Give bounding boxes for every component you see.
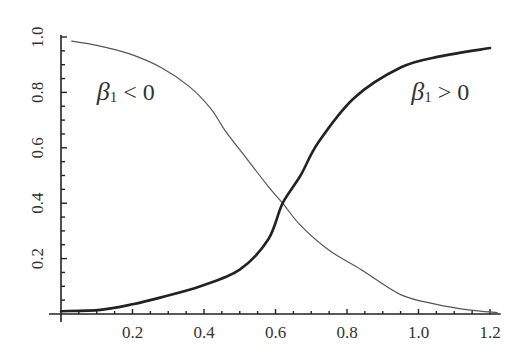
y-tick-label: 0.4 [28, 192, 47, 214]
x-tick-label: 0.8 [336, 323, 357, 342]
logistic-curves-chart: 0.20.40.60.81.01.2 0.20.40.60.81.0 β1 < … [0, 0, 531, 357]
annotations: β1 < 0β1 > 0 [96, 77, 470, 106]
x-tick-label: 0.2 [122, 323, 143, 342]
x-tick-label: 1.0 [408, 323, 429, 342]
y-tick-label: 1.0 [28, 26, 47, 47]
label-beta-positive: β1 > 0 [410, 77, 469, 106]
label-beta-negative: β1 < 0 [96, 77, 155, 106]
x-tick-label: 1.2 [479, 323, 500, 342]
x-tick-label: 0.6 [265, 323, 286, 342]
y-tick-label: 0.8 [28, 82, 47, 103]
y-tick-label: 0.6 [28, 137, 47, 158]
axes: 0.20.40.60.81.01.2 0.20.40.60.81.0 [28, 26, 501, 342]
x-tick-label: 0.4 [193, 323, 215, 342]
y-tick-label: 0.2 [28, 248, 47, 269]
